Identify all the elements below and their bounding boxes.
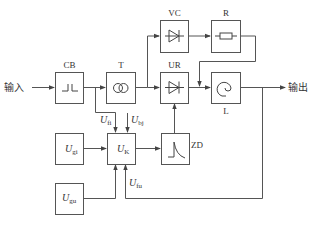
- r-label: R: [223, 8, 229, 18]
- t-label: T: [118, 60, 124, 70]
- cb-label: CB: [63, 60, 75, 70]
- input-label: 输入: [4, 81, 24, 93]
- ubj-label: Ubj: [131, 114, 144, 127]
- ufu-label: Ufu: [129, 177, 143, 190]
- vc-label: VC: [168, 8, 181, 18]
- t-block: [107, 73, 136, 104]
- l-label: L: [223, 106, 229, 116]
- ur-label: UR: [168, 60, 181, 70]
- ufi-label: Ufi: [100, 114, 112, 127]
- l-block: [212, 73, 241, 104]
- output-label: 输出: [288, 81, 308, 93]
- zd-label: ZD: [191, 140, 203, 150]
- block-diagram: 输入 输出 CB T VC R UR L ZD Ugi UK Ugu Ufi U…: [0, 0, 312, 227]
- ugu-to-uk-arrow: [83, 165, 116, 199]
- cb-block: [56, 73, 84, 104]
